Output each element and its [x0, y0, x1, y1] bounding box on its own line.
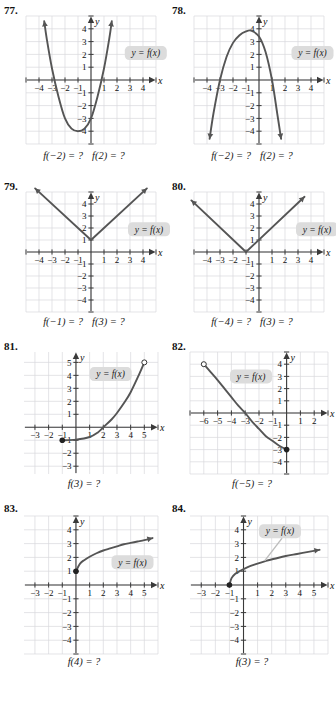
svg-text:−1: −1 — [77, 88, 87, 98]
svg-text:4: 4 — [141, 83, 146, 93]
exercise-panel: 79.−4−3−2−112344321−1−2−3−4yxy = f(x)f(−… — [0, 178, 168, 338]
svg-text:−2: −2 — [245, 271, 255, 281]
x-axis-label: x — [325, 75, 331, 86]
svg-text:2: 2 — [82, 50, 87, 60]
label-text: y = f(x) — [265, 526, 295, 537]
svg-text:2: 2 — [67, 553, 72, 563]
svg-text:−4: −4 — [245, 295, 255, 305]
function-label: y = f(x) — [112, 555, 154, 569]
svg-text:4: 4 — [298, 588, 303, 598]
closed-endpoint — [59, 437, 65, 443]
open-endpoint — [142, 360, 147, 365]
svg-text:−3: −3 — [196, 588, 206, 598]
exercise-panel: 82.−6−5−4−3−2−1124321−1−2−3−4yxy = f(x)f… — [168, 338, 336, 500]
svg-text:5: 5 — [67, 358, 72, 368]
svg-text:3: 3 — [296, 83, 301, 93]
svg-text:−2: −2 — [60, 83, 70, 93]
svg-text:3: 3 — [250, 37, 255, 47]
svg-text:−5: −5 — [213, 416, 223, 426]
caption-part: f(−2) = ? — [211, 150, 251, 161]
svg-text:−3: −3 — [30, 588, 40, 598]
svg-text:2: 2 — [115, 255, 120, 265]
svg-text:−4: −4 — [34, 255, 44, 265]
svg-text:−3: −3 — [245, 283, 255, 293]
exercise-caption: f(4) = ? — [0, 656, 168, 667]
graph-plot: −6−5−4−3−2−1124321−1−2−3−4yxy = f(x) — [190, 352, 328, 474]
svg-text:−2: −2 — [44, 430, 54, 440]
graph-plot: −4−3−2−112344321−1−2−3−4yxy = f(x) — [194, 192, 324, 312]
svg-text:1: 1 — [82, 62, 87, 72]
axes — [25, 517, 158, 654]
svg-text:1: 1 — [255, 588, 260, 598]
svg-text:4: 4 — [309, 83, 314, 93]
exercise-panel: 78.−4−3−2−112344321−1−2−3−4yxy = f(x)f(−… — [168, 2, 336, 178]
svg-text:4: 4 — [128, 430, 133, 440]
exercise-caption: f(3) = ? — [168, 656, 336, 667]
y-axis-label: y — [94, 192, 100, 203]
svg-text:2: 2 — [235, 553, 240, 563]
function-label: y = f(x) — [128, 222, 170, 236]
caption-part: f(−2) = ? — [43, 150, 83, 161]
svg-text:2: 2 — [312, 416, 317, 426]
svg-text:1: 1 — [270, 255, 275, 265]
svg-text:−3: −3 — [229, 622, 239, 632]
svg-text:2: 2 — [283, 255, 288, 265]
svg-text:2: 2 — [115, 83, 120, 93]
y-axis-label: y — [262, 192, 268, 203]
graph-plot: −4−3−2−112344321−1−2−3−4yxy = f(x) — [194, 16, 324, 144]
svg-text:−6: −6 — [199, 416, 209, 426]
exercise-panel: 83.−3−2−1123454321−1−2−3−4yxy = f(x)f(4)… — [0, 500, 168, 700]
svg-text:1: 1 — [67, 566, 72, 576]
exercise-panel: 77.−4−3−2−112344321−1−2−3−4yxy = f(x)f(−… — [0, 2, 168, 178]
y-axis-label: y — [94, 16, 100, 27]
exercise-panel: 84.−3−2−1123454321−1−2−3−4yxy = f(x)f(3)… — [168, 500, 336, 700]
function-label: y = f(x) — [125, 46, 167, 60]
svg-text:4: 4 — [67, 525, 72, 535]
svg-text:5: 5 — [312, 588, 317, 598]
exercise-caption: f(−5) = ? — [168, 478, 336, 489]
y-axis-label: y — [247, 516, 253, 527]
svg-text:3: 3 — [284, 588, 289, 598]
svg-text:5: 5 — [142, 588, 147, 598]
x-axis-label: x — [157, 247, 163, 258]
exercise-caption: f(−2) = ?f(2) = ? — [0, 150, 168, 161]
svg-text:−4: −4 — [245, 126, 255, 136]
axes — [27, 193, 156, 312]
exercise-number: 78. — [172, 4, 186, 16]
svg-text:4: 4 — [235, 525, 240, 535]
function-label: y = f(x) — [259, 524, 301, 561]
svg-text:3: 3 — [128, 83, 133, 93]
svg-text:4: 4 — [141, 255, 146, 265]
graph-plot: −3−2−1123454321−1−2−3−4yxy = f(x) — [24, 516, 158, 654]
svg-text:−4: −4 — [273, 457, 283, 467]
caption-part: f(−4) = ? — [211, 316, 251, 327]
svg-text:1: 1 — [250, 62, 255, 72]
function-label: y = f(x) — [292, 46, 334, 60]
axes — [191, 517, 328, 654]
svg-text:3: 3 — [82, 37, 87, 47]
x-axis-label: x — [159, 422, 165, 433]
graph-plot: −3−2−1123454321−1−2−3−4yxy = f(x) — [190, 516, 328, 654]
exercise-caption: f(−2) = ?f(2) = ? — [168, 150, 336, 161]
svg-text:2: 2 — [250, 223, 255, 233]
svg-text:3: 3 — [250, 211, 255, 221]
label-text: y = f(x) — [134, 225, 164, 236]
svg-text:−4: −4 — [202, 255, 212, 265]
svg-text:3: 3 — [115, 588, 120, 598]
svg-text:2: 2 — [101, 588, 106, 598]
svg-text:−3: −3 — [47, 255, 57, 265]
svg-text:3: 3 — [67, 539, 72, 549]
caption-part: f(−1) = ? — [43, 316, 83, 327]
x-axis-label: x — [159, 580, 165, 591]
open-endpoint — [201, 362, 206, 367]
caption-part: f(3) = ? — [92, 316, 125, 327]
svg-text:4: 4 — [128, 588, 133, 598]
label-text: y = f(x) — [297, 48, 327, 59]
svg-text:−1: −1 — [229, 594, 239, 604]
exercise-number: 79. — [4, 180, 18, 192]
svg-text:3: 3 — [82, 211, 87, 221]
x-axis-label: x — [329, 408, 335, 419]
svg-text:1: 1 — [102, 83, 107, 93]
x-axis-label: x — [325, 247, 331, 258]
svg-text:−2: −2 — [229, 608, 239, 618]
